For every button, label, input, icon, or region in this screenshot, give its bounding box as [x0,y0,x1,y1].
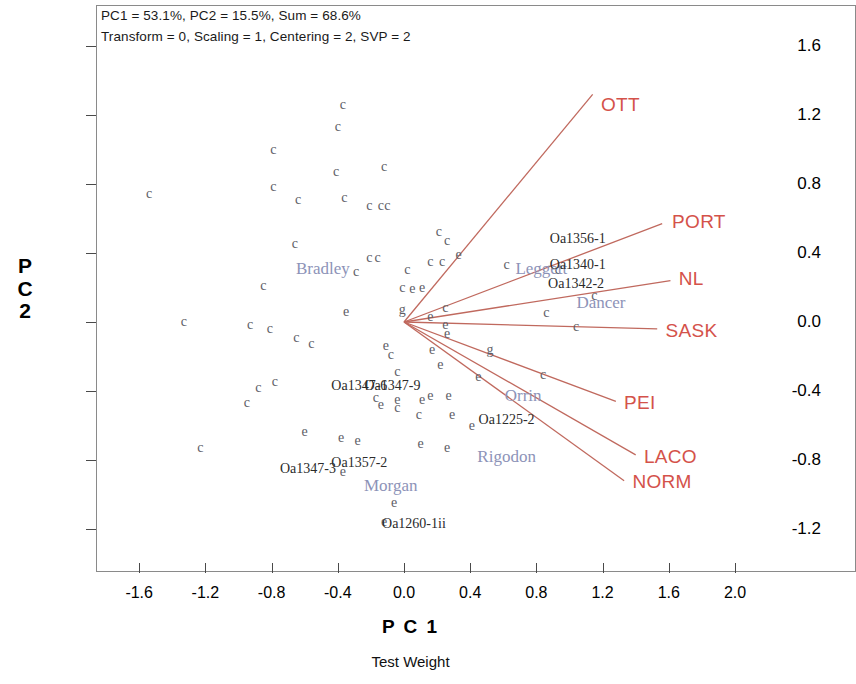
vector-label: OTT [601,94,640,116]
accession-label: Oa1357-2 [331,455,387,471]
vector-label: PORT [672,211,726,233]
cultivar-label: Morgan [364,476,418,496]
vector-label: PEI [624,392,656,414]
accession-label: Oa1342-2 [548,276,604,292]
accession-label: Oa1347-9 [364,378,420,394]
cultivar-label: Dancer [576,293,625,313]
cultivar-label: Bradley [296,259,350,279]
vector-line [404,322,657,329]
cultivar-label: Rigodon [477,447,536,467]
vector-label: SASK [665,320,717,342]
accession-label: Oa1340-1 [550,257,606,273]
accession-label: Oa1347-3 [280,461,336,477]
accession-label: Oa1356-1 [550,231,606,247]
vector-line [404,281,670,322]
vector-label: NL [679,268,704,290]
accession-label: Oa1260-1ii [382,516,446,532]
vector-label: NORM [632,471,691,493]
vector-label: LACO [644,446,697,468]
accession-label: Oa1225-2 [479,412,535,428]
cultivar-label: Orrin [505,386,542,406]
